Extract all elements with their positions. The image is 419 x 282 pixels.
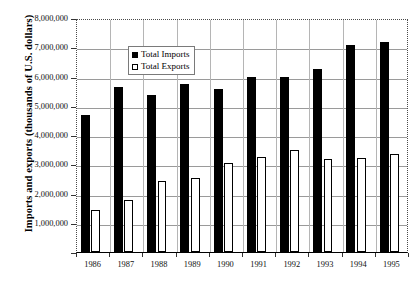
bar-group-1990 — [210, 20, 243, 252]
bar-imports-1989 — [180, 84, 189, 252]
bar-imports-1986 — [81, 115, 90, 252]
bar-exports-1993 — [324, 159, 333, 252]
x-axis-tick-label-1993: 1993 — [308, 260, 341, 269]
bar-imports-1987 — [114, 87, 123, 252]
bar-exports-1989 — [191, 178, 200, 252]
bar-imports-1992 — [280, 77, 289, 253]
x-axis-tick-mark — [408, 253, 409, 257]
bar-group-1993 — [309, 20, 342, 252]
bar-group-1992 — [276, 20, 309, 252]
bar-imports-1991 — [247, 77, 256, 253]
bar-exports-1991 — [257, 157, 266, 252]
hollow-square-icon — [132, 64, 138, 70]
bar-exports-1990 — [224, 163, 233, 252]
x-axis-tick-label-1991: 1991 — [242, 260, 275, 269]
chart-legend: Total Imports Total Exports — [128, 46, 195, 75]
x-axis-tick-mark — [76, 253, 77, 257]
legend-item-total-exports: Total Exports — [132, 61, 190, 72]
legend-label-total-imports: Total Imports — [141, 49, 190, 60]
x-axis-tick-label-1992: 1992 — [275, 260, 308, 269]
x-axis-tick-label-1986: 1986 — [76, 260, 109, 269]
y-axis-tick-label: 6,000,000 — [35, 73, 69, 82]
y-axis-tick-label: 2,000,000 — [35, 190, 69, 199]
legend-label-total-exports: Total Exports — [141, 61, 190, 72]
x-axis-tick-mark — [242, 253, 243, 257]
x-axis-tick-mark — [176, 253, 177, 257]
bar-group-1994 — [343, 20, 376, 252]
bar-group-1986 — [77, 20, 110, 252]
x-axis-tick-label-1989: 1989 — [176, 260, 209, 269]
x-axis-tick-mark — [308, 253, 309, 257]
bar-exports-1994 — [357, 158, 366, 252]
legend-item-total-imports: Total Imports — [132, 49, 190, 60]
x-axis-tick-mark — [209, 253, 210, 257]
x-axis-tick-mark — [375, 253, 376, 257]
filled-square-icon — [132, 52, 138, 58]
plot-area — [76, 19, 408, 253]
x-axis-tick-mark — [142, 253, 143, 257]
x-axis-tick-label-1994: 1994 — [342, 260, 375, 269]
bar-imports-1993 — [313, 69, 322, 252]
y-axis-tick-label: 8,000,000 — [35, 14, 69, 23]
bar-imports-1990 — [214, 89, 223, 252]
y-axis-title: Imports and exports (thousands of U.S. d… — [23, 4, 34, 244]
bar-exports-1987 — [124, 200, 133, 252]
x-axis-tick-label-1995: 1995 — [375, 260, 408, 269]
y-axis-tick-label: 7,000,000 — [35, 43, 69, 52]
y-axis-tick-label: 1,000,000 — [35, 219, 69, 228]
bar-exports-1992 — [290, 150, 299, 252]
y-axis-tick-label: 3,000,000 — [35, 160, 69, 169]
bar-group-1995 — [376, 20, 409, 252]
bar-imports-1988 — [147, 95, 156, 252]
bar-imports-1995 — [380, 42, 389, 252]
bar-exports-1995 — [390, 154, 399, 252]
x-axis-tick-mark — [342, 253, 343, 257]
bar-group-1991 — [243, 20, 276, 252]
x-axis-tick-label-1987: 1987 — [109, 260, 142, 269]
x-axis-tick-label-1988: 1988 — [142, 260, 175, 269]
x-axis-tick-mark — [109, 253, 110, 257]
bar-exports-1988 — [158, 181, 167, 252]
x-axis-tick-label-1990: 1990 — [209, 260, 242, 269]
bar-chart: Imports and exports (thousands of U.S. d… — [0, 0, 419, 282]
bar-exports-1986 — [91, 210, 100, 252]
x-axis-tick-mark — [275, 253, 276, 257]
bar-imports-1994 — [346, 45, 355, 252]
y-axis-tick-label: 4,000,000 — [35, 131, 69, 140]
y-axis-tick-label: 5,000,000 — [35, 102, 69, 111]
